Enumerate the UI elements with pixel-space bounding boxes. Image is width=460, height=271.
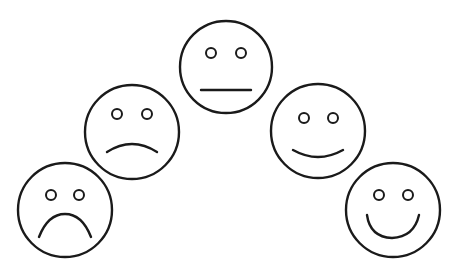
right-eye	[142, 109, 152, 119]
left-eye	[374, 190, 384, 200]
face-very-happy-icon[interactable]	[346, 163, 440, 257]
mouth-big-smile	[367, 215, 419, 238]
right-eye	[403, 190, 413, 200]
mouth-deep-frown	[39, 214, 91, 237]
face-happy-icon[interactable]	[271, 84, 365, 178]
left-eye	[206, 48, 216, 58]
face-outline	[18, 163, 112, 257]
right-eye	[328, 113, 338, 123]
mouth-frown	[107, 144, 157, 152]
left-eye	[112, 109, 122, 119]
left-eye	[46, 190, 56, 200]
face-very-sad-icon[interactable]	[18, 163, 112, 257]
face-neutral-icon[interactable]	[180, 21, 272, 113]
mouth-smile	[293, 150, 343, 157]
face-outline	[271, 84, 365, 178]
face-outline	[346, 163, 440, 257]
face-outline	[85, 85, 179, 179]
right-eye	[74, 190, 84, 200]
emotion-scale	[0, 0, 460, 271]
face-sad-icon[interactable]	[85, 85, 179, 179]
face-outline	[180, 21, 272, 113]
right-eye	[236, 48, 246, 58]
left-eye	[299, 113, 309, 123]
